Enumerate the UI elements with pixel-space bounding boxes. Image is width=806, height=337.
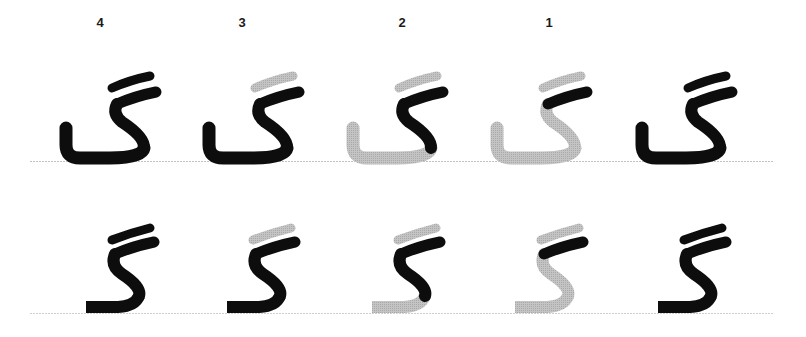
glyph-initial-final: [658, 228, 726, 307]
glyph-isolated-step-4: [66, 76, 156, 158]
glyph-initial-step-3: [227, 228, 295, 307]
glyph-isolated-step-2: [353, 76, 443, 158]
glyph-isolated-final: [642, 76, 732, 158]
glyph-isolated-step-1: [497, 76, 587, 158]
glyph-initial-step-2: [372, 228, 440, 307]
stroke-order-diagram: [0, 0, 806, 337]
glyph-isolated-step-3: [209, 76, 299, 158]
glyph-initial-step-1: [515, 228, 583, 307]
glyph-initial-step-4: [86, 228, 154, 307]
